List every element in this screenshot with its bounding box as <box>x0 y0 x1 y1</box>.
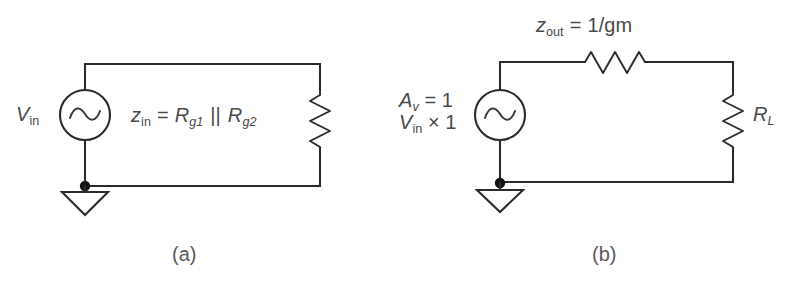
zout-value: 1/gm <box>587 14 632 36</box>
rg2-symbol: R <box>228 104 243 126</box>
figure-caption-b: (b) <box>592 243 616 266</box>
resistor-zigzag-horizontal-icon <box>585 52 645 73</box>
figure-root: Vin zin=Rg1||Rg2 (a) zout=1/gm Av = 1 Vi… <box>0 0 808 290</box>
vin-multiplier: × 1 <box>422 111 456 133</box>
circuit-b-output-impedance-annotation: zout=1/gm <box>536 14 632 36</box>
av-subscript: v <box>412 100 418 114</box>
source-label-subscript: in <box>29 114 39 128</box>
circuit-b-top-wire-left <box>500 62 585 90</box>
zin-symbol: z <box>131 104 141 126</box>
rl-subscript: L <box>768 114 775 128</box>
source-label-symbol: V <box>16 103 29 125</box>
ground-triangle-icon <box>62 192 108 215</box>
av-symbol: A <box>399 89 412 111</box>
vin-subscript: in <box>412 122 422 136</box>
zin-equals: = <box>157 104 169 126</box>
rg2-subscript: g2 <box>242 115 256 129</box>
resistor-zigzag-vertical-icon <box>310 90 330 150</box>
circuit-a-impedance-annotation: zin=Rg1||Rg2 <box>131 104 256 126</box>
circuit-b-load-label: RL <box>753 103 775 125</box>
zout-symbol: z <box>536 14 546 36</box>
ground-triangle-icon <box>477 190 523 212</box>
rg1-symbol: R <box>175 104 190 126</box>
circuit-drawing-canvas <box>0 0 808 290</box>
circuit-b-source-label: Av = 1 Vin × 1 <box>399 89 457 134</box>
source-voltage-line: Vin × 1 <box>399 111 457 133</box>
figure-caption-a: (a) <box>172 243 196 266</box>
zout-equals: = <box>570 14 582 36</box>
circuit-b-top-wire-right <box>645 62 733 90</box>
parallel-operator: || <box>210 104 221 126</box>
vin-symbol: V <box>399 111 412 133</box>
rl-symbol: R <box>753 103 768 125</box>
source-gain-line: Av = 1 <box>399 89 457 111</box>
rg1-subscript: g1 <box>189 115 203 129</box>
circuit-a-source-label: Vin <box>16 103 39 125</box>
zin-subscript: in <box>141 115 151 129</box>
circuit-a-top-wire <box>85 64 320 90</box>
resistor-zigzag-vertical-icon <box>723 90 743 150</box>
av-value: = 1 <box>419 89 453 111</box>
zout-subscript: out <box>546 25 564 39</box>
circuit-b-group <box>475 52 743 212</box>
circuit-a-group <box>60 64 330 215</box>
